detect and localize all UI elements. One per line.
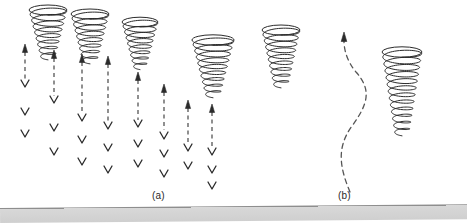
flow-column-6-chevron-1	[160, 132, 168, 139]
vortex-a1-rim	[29, 5, 67, 15]
panel-b-flow-group	[341, 32, 366, 192]
flow-column-5-chevron-2	[134, 140, 142, 147]
flow-column-1-arrowhead	[22, 44, 27, 53]
flow-column-6	[160, 84, 168, 177]
panel-label-a: (a)	[152, 190, 165, 201]
vortex-b1	[262, 25, 300, 88]
flow-column-8-chevron-1	[208, 148, 216, 155]
vortex-a2-helix	[72, 12, 109, 64]
flow-column-3-chevron-1	[78, 114, 86, 121]
figure-vector-layer	[0, 0, 467, 223]
panel-label-b: (b)	[338, 190, 351, 201]
vortex-b2	[382, 47, 422, 136]
flow-column-1-chevron-2	[21, 108, 29, 115]
flow-column-1-chevron-3	[21, 130, 29, 137]
flow-column-4-chevron-3	[104, 166, 112, 173]
figure-canvas: (a) (b)	[0, 0, 467, 223]
vortex-a3-helix	[123, 20, 158, 69]
flow-column-6-arrowhead	[161, 84, 166, 93]
panel-a-flow-group	[21, 44, 216, 189]
vortex-a2	[71, 9, 109, 64]
flow-column-8-chevron-3	[208, 182, 216, 189]
vortex-b2-helix	[383, 50, 422, 136]
flow-column-2	[50, 50, 58, 155]
flow-column-7-chevron-1	[184, 144, 192, 151]
vortex-a1	[29, 5, 67, 60]
curved-flow-arrow	[341, 32, 366, 192]
vortex-a3-rim	[122, 17, 158, 27]
flow-column-4-arrowhead	[105, 56, 110, 65]
vortex-b1-rim	[262, 25, 300, 35]
flow-column-3-chevron-2	[78, 136, 86, 143]
flow-column-2-chevron-1	[50, 96, 58, 103]
vortex-b2-rim	[382, 47, 422, 57]
flow-column-1	[21, 44, 29, 137]
flow-column-8	[208, 104, 216, 189]
curved-flow-arrow-dashed-path	[341, 41, 366, 192]
flow-column-5-chevron-1	[134, 120, 142, 127]
flow-column-5-arrowhead	[135, 72, 140, 81]
panel-a-vortex-group	[29, 5, 234, 98]
flow-column-3	[78, 54, 86, 165]
flow-column-8-arrowhead	[209, 104, 214, 113]
flow-column-5-chevron-3	[134, 160, 142, 167]
flow-column-5	[134, 72, 142, 167]
vortex-a3	[122, 17, 158, 69]
flow-column-2-chevron-2	[50, 124, 58, 131]
flow-column-4-chevron-1	[104, 122, 112, 129]
vortex-a4-helix	[193, 38, 233, 98]
flow-column-1-chevron-1	[21, 80, 29, 87]
vortex-a4-rim	[192, 35, 234, 45]
vortex-a4	[192, 35, 234, 98]
flow-column-7-chevron-2	[184, 162, 192, 169]
flow-column-4	[104, 56, 112, 173]
vortex-a2-rim	[71, 9, 109, 19]
vortex-b1-helix	[263, 28, 300, 88]
flow-column-4-chevron-2	[104, 144, 112, 151]
vortex-a1-helix	[30, 8, 67, 60]
flow-column-7-arrowhead	[185, 100, 190, 109]
flow-column-6-chevron-3	[160, 170, 168, 177]
flow-column-3-chevron-3	[78, 158, 86, 165]
flow-column-8-chevron-2	[208, 166, 216, 173]
flow-column-7	[184, 100, 192, 169]
flow-column-2-chevron-3	[50, 148, 58, 155]
flow-column-6-chevron-2	[160, 150, 168, 157]
curved-flow-arrow-arrowhead	[341, 32, 347, 42]
